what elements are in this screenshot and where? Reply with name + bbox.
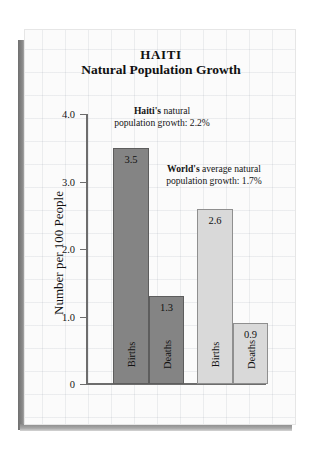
page-shadow-bottom: [20, 424, 292, 431]
y-tick-mark-1: [80, 317, 87, 318]
bar-world-deaths[interactable]: 0.9 Deaths: [233, 323, 268, 384]
bar-haiti-births[interactable]: 3.5 Births: [113, 148, 149, 384]
bar-category-world-deaths: Deaths: [245, 340, 256, 369]
y-tick-label-1: 1.0: [35, 311, 75, 322]
y-tick-label-3: 3.0: [35, 176, 75, 187]
bar-value-haiti-deaths: 1.3: [150, 302, 183, 313]
y-tick-mark-2: [80, 249, 87, 250]
bar-haiti-deaths[interactable]: 1.3 Deaths: [149, 296, 184, 384]
bar-label-wrap-haiti-deaths: Deaths: [150, 334, 183, 380]
bar-label-wrap-world-births: Births: [198, 334, 232, 380]
y-tick-label-2: 2.0: [35, 244, 75, 255]
y-tick-mark-4: [80, 114, 87, 115]
y-tick-mark-0: [80, 384, 87, 385]
bar-category-haiti-births: Births: [126, 342, 137, 368]
bar-value-haiti-births: 3.5: [114, 154, 148, 165]
bar-category-world-births: Births: [210, 342, 221, 368]
bar-label-wrap-haiti-births: Births: [114, 334, 148, 380]
y-tick-mark-3: [80, 182, 87, 183]
bar-value-world-births: 2.6: [198, 215, 232, 226]
chart-page-card: HAITI Natural Population Growth Haiti's …: [24, 29, 296, 425]
bar-category-haiti-deaths: Deaths: [161, 340, 172, 369]
plot-area: Number per 100 People 4.0 3.0 2.0 1.0 0 …: [25, 30, 296, 425]
bar-world-births[interactable]: 2.6 Births: [197, 209, 233, 385]
y-tick-label-0: 0: [35, 379, 75, 390]
bar-label-wrap-world-deaths: Deaths: [234, 334, 267, 380]
y-tick-label-4: 4.0: [35, 109, 75, 120]
